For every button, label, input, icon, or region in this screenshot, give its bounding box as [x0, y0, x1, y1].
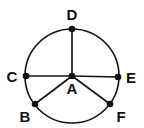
label-e: E: [126, 69, 136, 86]
label-d: D: [67, 6, 78, 23]
label-b: B: [20, 108, 31, 125]
label-c: C: [7, 68, 18, 85]
point-e: [115, 74, 122, 81]
point-b: [32, 101, 39, 108]
circle-diagram: ABCDEF: [0, 0, 144, 128]
label-a: A: [67, 80, 78, 97]
point-d: [69, 26, 76, 33]
point-c: [23, 73, 30, 80]
label-f: F: [116, 108, 125, 125]
point-a: [69, 73, 76, 80]
segment-af: [72, 76, 110, 104]
segment-ae: [72, 76, 118, 77]
point-f: [107, 101, 114, 108]
